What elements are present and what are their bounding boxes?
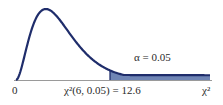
density-curve [16, 9, 210, 80]
origin-tick-label: 0 [12, 85, 18, 96]
x-axis-label: χ² [202, 85, 210, 96]
alpha-label: α = 0.05 [134, 52, 171, 63]
critical-value-label: χ²(6, 0.05) = 12.6 [64, 85, 141, 96]
